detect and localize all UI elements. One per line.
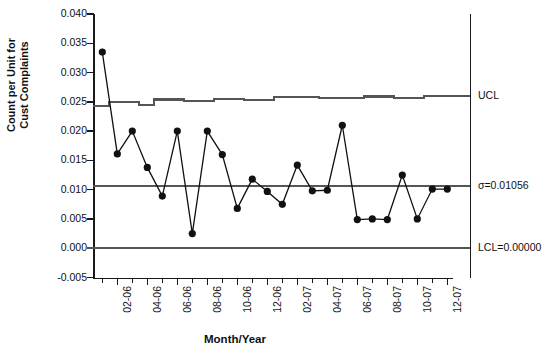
series-line [102, 52, 447, 234]
data-point [129, 128, 136, 135]
series-markers [99, 48, 451, 237]
data-point [114, 150, 121, 157]
data-point [399, 171, 406, 178]
data-point [189, 230, 196, 237]
data-point [444, 185, 451, 192]
data-point [369, 215, 376, 222]
data-point [264, 188, 271, 195]
x-axis-title: Month/Year [0, 333, 470, 345]
data-point [324, 187, 331, 194]
data-series [0, 0, 558, 355]
data-point [279, 201, 286, 208]
data-point [204, 128, 211, 135]
data-point [144, 164, 151, 171]
control-chart: Count per Unit for Cust Complaints 0.040… [0, 0, 558, 355]
data-point [384, 216, 391, 223]
data-point [249, 176, 256, 183]
data-point [414, 215, 421, 222]
data-point [159, 193, 166, 200]
data-point [339, 122, 346, 129]
data-point [234, 205, 241, 212]
data-point [309, 187, 316, 194]
data-point [219, 151, 226, 158]
data-point [429, 185, 436, 192]
data-point [294, 161, 301, 168]
data-point [174, 128, 181, 135]
data-point [354, 216, 361, 223]
data-point [99, 48, 106, 55]
